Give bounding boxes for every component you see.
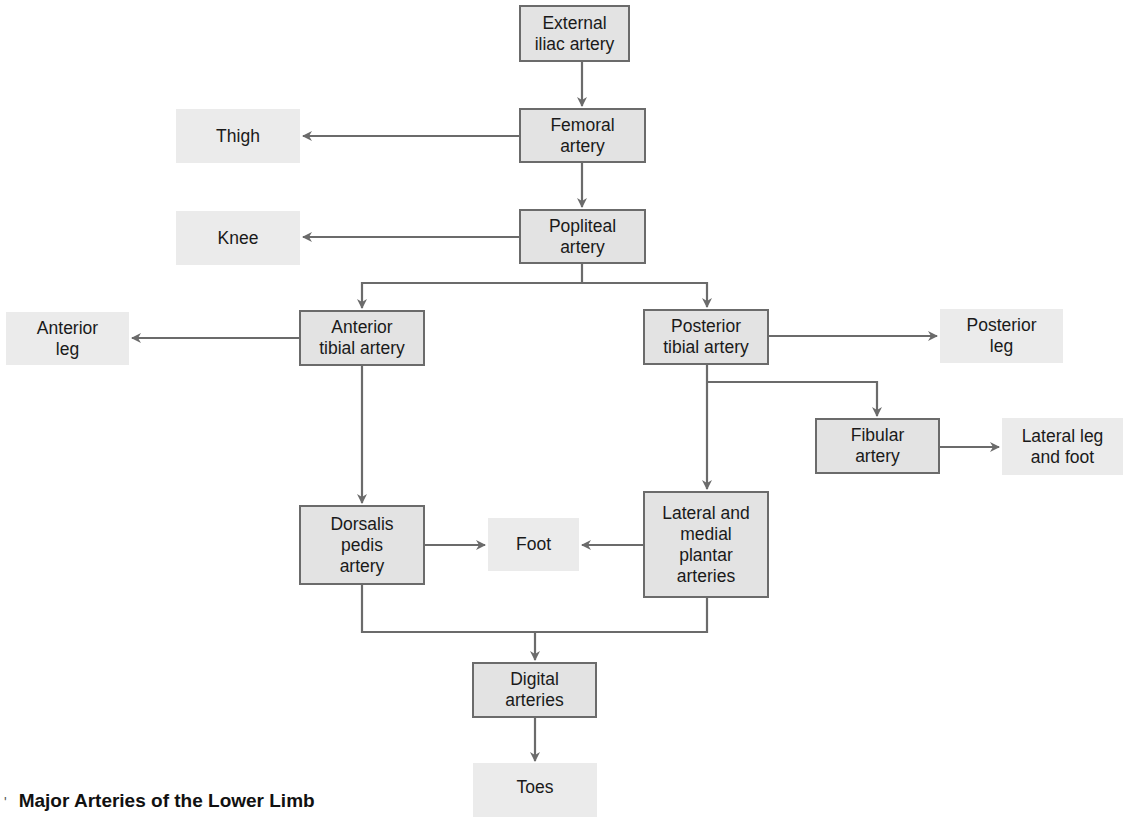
node-toes: Toes <box>473 763 597 817</box>
node-foot: Foot <box>488 518 579 571</box>
node-anterior-leg: Anterior leg <box>6 312 129 365</box>
node-popliteal-artery: Popliteal artery <box>519 209 646 264</box>
node-external-iliac-artery: External iliac artery <box>519 5 630 62</box>
edge-popliteal-posterior-tibial <box>582 283 707 307</box>
node-dorsalis-pedis-artery: Dorsalis pedis artery <box>299 505 425 585</box>
node-femoral-artery: Femoral artery <box>519 108 646 163</box>
node-fibular-artery: Fibular artery <box>815 418 940 474</box>
figure-caption: 'Major Arteries of the Lower Limb <box>4 790 315 812</box>
node-lateral-leg-and-foot: Lateral leg and foot <box>1002 418 1123 475</box>
edge-popliteal-anterior-tibial <box>362 283 582 308</box>
node-thigh: Thigh <box>176 109 300 163</box>
caption-title: Major Arteries of the Lower Limb <box>19 790 315 811</box>
node-posterior-leg: Posterior leg <box>940 309 1063 363</box>
node-anterior-tibial-artery: Anterior tibial artery <box>299 310 425 366</box>
node-posterior-tibial-artery: Posterior tibial artery <box>643 309 769 365</box>
caption-mark: ' <box>4 794 7 810</box>
node-lateral-medial-plantar-arteries: Lateral and medial plantar arteries <box>643 491 769 598</box>
node-knee: Knee <box>176 211 300 265</box>
node-digital-arteries: Digital arteries <box>472 662 597 718</box>
edge-posttibial-fibular <box>707 382 877 416</box>
